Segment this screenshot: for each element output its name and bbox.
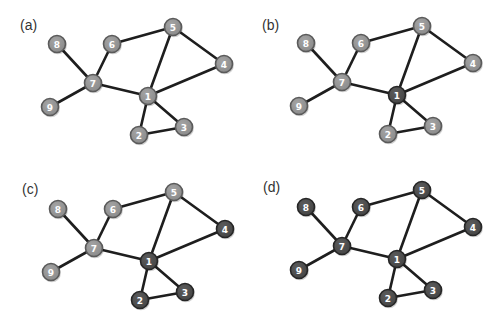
node-1: 1 xyxy=(389,251,407,270)
node-label: 9 xyxy=(296,266,302,276)
node-label: 2 xyxy=(385,294,391,304)
node-label: 6 xyxy=(358,203,364,213)
node-label: 8 xyxy=(303,203,309,213)
node-label: 5 xyxy=(419,186,425,196)
node-label: 4 xyxy=(470,223,476,233)
node-label: 1 xyxy=(394,255,400,265)
node-9: 9 xyxy=(291,262,309,281)
node-3: 3 xyxy=(425,282,443,301)
node-4: 4 xyxy=(465,219,483,238)
graph-drawing: 123456789 xyxy=(0,0,501,321)
node-6: 6 xyxy=(353,199,371,218)
edge-6-5 xyxy=(361,190,422,207)
node-label: 3 xyxy=(430,286,436,296)
panel-d: (d) 123456789 xyxy=(0,0,250,160)
node-label: 7 xyxy=(339,242,345,252)
node-2: 2 xyxy=(380,290,398,309)
node-5: 5 xyxy=(414,182,432,201)
edge-4-1 xyxy=(397,227,473,259)
node-8: 8 xyxy=(298,199,316,218)
node-7: 7 xyxy=(334,238,352,257)
